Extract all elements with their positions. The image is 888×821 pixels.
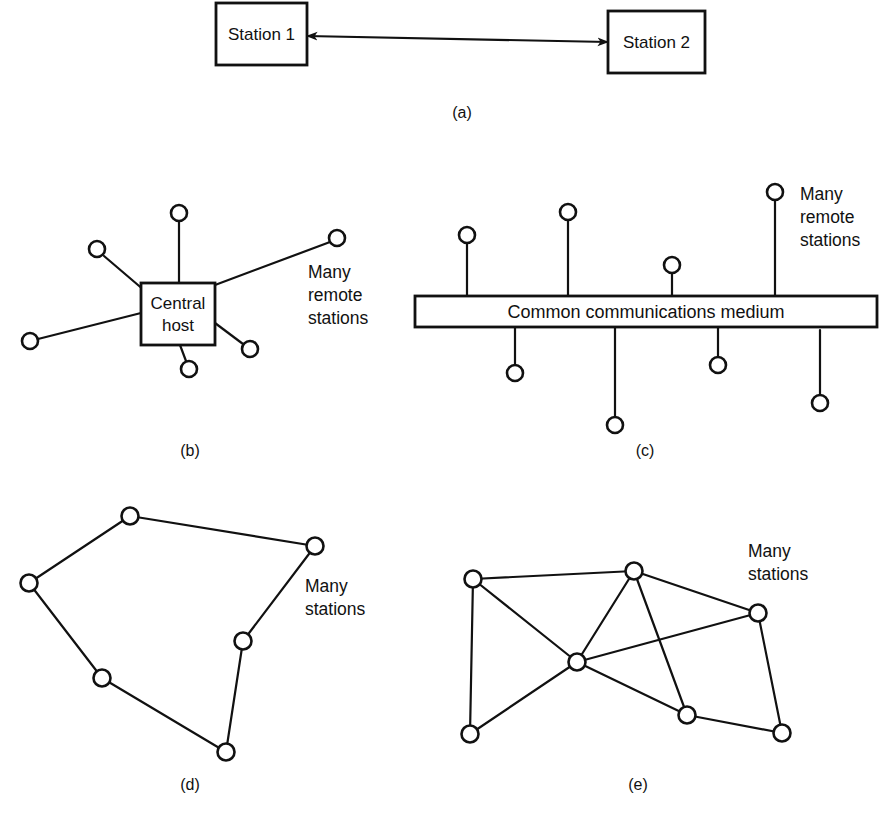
station-node [750, 605, 767, 622]
station-1-label: Station 1 [228, 25, 295, 44]
remote-station-node [171, 205, 187, 221]
mesh-link [470, 579, 473, 734]
ring-link [29, 516, 130, 583]
panel-d-links [29, 516, 315, 752]
panel-c-top-drops [467, 200, 775, 300]
common-medium-bar: Common communications medium [415, 296, 877, 327]
annotation-line-stations: stations [308, 308, 369, 328]
annotation-line-many: Many [305, 576, 348, 596]
panel-e-links [470, 571, 782, 734]
station-node [307, 538, 324, 555]
station-2-label: Station 2 [623, 33, 690, 52]
mesh-link [758, 613, 782, 733]
remote-station-node [507, 365, 523, 381]
station-node [462, 726, 479, 743]
station-1-box: Station 1 [216, 3, 307, 65]
remote-station-node [22, 333, 38, 349]
station-node [569, 654, 586, 671]
spoke-link [104, 256, 145, 291]
mesh-link [687, 715, 782, 733]
station-node [626, 563, 643, 580]
station-2-box: Station 2 [608, 11, 705, 73]
annotation-line-remote: remote [800, 207, 854, 227]
remote-station-node [767, 184, 783, 200]
annotation-line-stations: stations [748, 564, 809, 584]
station-node [94, 670, 111, 687]
station-node [774, 725, 791, 742]
station-node [465, 571, 482, 588]
panel-d-nodes [21, 508, 324, 761]
central-host-label-line1: Central [151, 294, 206, 313]
panel-e-nodes [462, 563, 791, 743]
remote-station-node [181, 361, 197, 377]
station-node [218, 744, 235, 761]
remote-station-node [560, 204, 576, 220]
ring-link [102, 678, 226, 752]
remote-station-node [812, 395, 828, 411]
station-node [21, 575, 38, 592]
mesh-link [634, 571, 758, 613]
station-node [679, 707, 696, 724]
station-node [122, 508, 139, 525]
network-topology-figure: Station 1 Station 2 (a) Central [0, 0, 888, 821]
annotation-line-remote: remote [308, 285, 362, 305]
panel-e-annotation: Many stations [748, 541, 809, 584]
spoke-link [215, 323, 243, 344]
annotation-line-many: Many [800, 184, 843, 204]
central-host-box: Central host [141, 283, 215, 345]
ring-link [29, 583, 102, 678]
annotation-line-many: Many [308, 262, 351, 282]
panel-b-star: Central host Many remote stations (b) [22, 205, 369, 459]
mesh-link [473, 579, 577, 662]
remote-station-node [329, 230, 345, 246]
remote-station-node [710, 357, 726, 373]
remote-station-node [459, 227, 475, 243]
caption-e: (e) [628, 776, 648, 793]
common-medium-label: Common communications medium [507, 302, 784, 322]
annotation-line-stations: stations [305, 599, 366, 619]
panel-b-annotation: Many remote stations [308, 262, 369, 328]
ring-link [130, 516, 315, 546]
panel-c-annotation: Many remote stations [800, 184, 861, 250]
panel-c-bus: Common communications medium Many remote… [415, 184, 877, 459]
panel-e-mesh: Many stations (e) [462, 541, 809, 793]
spoke-link [180, 345, 186, 361]
central-host-label-line2: host [162, 316, 194, 335]
panel-d-ring: Many stations (d) [21, 508, 366, 794]
panel-c-bottom-drops [515, 325, 820, 417]
ring-link [226, 641, 243, 752]
caption-d: (d) [180, 776, 200, 793]
caption-c: (c) [636, 442, 655, 459]
remote-station-node [89, 241, 105, 257]
annotation-line-many: Many [748, 541, 791, 561]
panel-c-bottom-stations [507, 357, 828, 433]
caption-a: (a) [452, 104, 472, 121]
panel-c-top-stations [459, 184, 783, 273]
panel-a-link [307, 36, 608, 42]
panel-d-annotation: Many stations [305, 576, 366, 619]
station-node [235, 633, 252, 650]
spoke-link [38, 313, 141, 339]
remote-station-node [664, 257, 680, 273]
annotation-line-stations: stations [800, 230, 861, 250]
caption-b: (b) [180, 442, 200, 459]
mesh-link [470, 662, 577, 734]
panel-a-point-to-point: Station 1 Station 2 (a) [216, 3, 705, 121]
remote-station-node [242, 341, 258, 357]
mesh-link [473, 571, 634, 579]
remote-station-node [607, 417, 623, 433]
